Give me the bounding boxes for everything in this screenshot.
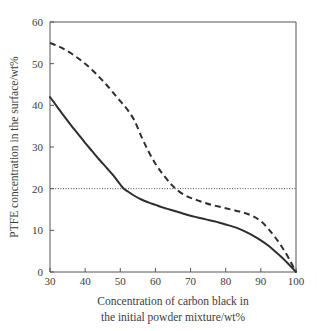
y-tick-label: 0	[38, 266, 44, 278]
y-tick-label: 60	[32, 16, 44, 28]
x-tick-label: 70	[185, 275, 197, 287]
y-tick-label: 20	[32, 183, 44, 195]
x-axis-title-line1: Concentration of carbon black in	[97, 295, 249, 307]
line-chart-svg: 30405060708090100 0102030405060 Concentr…	[0, 0, 317, 331]
x-tick-label: 100	[288, 275, 305, 287]
y-tick-label: 30	[32, 141, 44, 153]
y-tick-label: 50	[32, 58, 44, 70]
y-tick-label: 40	[32, 99, 44, 111]
x-tick-label: 90	[255, 275, 267, 287]
x-tick-label: 60	[150, 275, 162, 287]
x-tick-label: 30	[45, 275, 57, 287]
x-axis-title-line2: the initial powder mixture/wt%	[101, 311, 245, 324]
chart-figure: 30405060708090100 0102030405060 Concentr…	[0, 0, 317, 331]
y-axis-title: PTFE concentration in the surface/wt%	[8, 56, 20, 238]
x-tick-label: 40	[80, 275, 92, 287]
y-tick-label: 10	[32, 224, 44, 236]
x-tick-label: 80	[220, 275, 232, 287]
x-tick-label: 50	[115, 275, 127, 287]
